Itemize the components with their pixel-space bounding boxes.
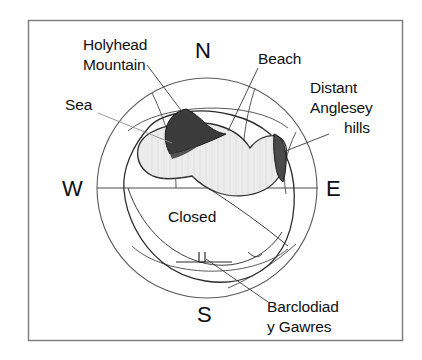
label-anglesey-line1: Distant <box>310 79 358 96</box>
label-holyhead-mountain-line2: Mountain <box>83 56 146 73</box>
label-closed: Closed <box>168 208 216 225</box>
label-beach: Beach <box>258 50 301 67</box>
barclodiad-notch <box>199 252 205 262</box>
label-anglesey-line2: Anglesey <box>310 99 373 116</box>
compass-label-north: N <box>195 38 211 63</box>
label-barclodiad-line2: y Gawres <box>267 318 332 335</box>
panorama-diagram: Holyhead Mountain Sea Beach Distant Angl… <box>0 0 422 360</box>
compass-label-east: E <box>326 176 341 201</box>
figure-root: Holyhead Mountain Sea Beach Distant Angl… <box>0 0 422 360</box>
compass-label-south: S <box>197 302 212 327</box>
label-barclodiad-line1: Barclodiad <box>267 298 339 315</box>
label-holyhead-mountain-line1: Holyhead <box>83 36 147 53</box>
compass-label-west: W <box>62 176 83 201</box>
label-anglesey-line3: hills <box>344 119 370 136</box>
label-sea: Sea <box>65 96 93 113</box>
